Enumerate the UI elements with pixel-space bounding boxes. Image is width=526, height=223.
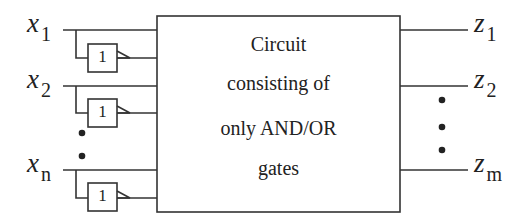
inverter-label-1: 1	[88, 47, 117, 67]
ellipsis-dot	[439, 147, 446, 154]
box-text-line-4: gates	[157, 157, 400, 180]
ellipsis-dot	[79, 130, 86, 137]
output-label-z1: z1	[474, 8, 497, 39]
box-text-line-1: Circuit	[157, 33, 400, 56]
box-text-line-3: only AND/OR	[157, 117, 400, 140]
box-text-line-2: consisting of	[157, 72, 400, 95]
ellipsis-dot	[79, 153, 86, 160]
input-label-x1: x1	[27, 8, 51, 39]
ellipsis-dot	[439, 124, 446, 131]
input-label-x2: x2	[27, 64, 51, 95]
inverter-label-n: 1	[88, 186, 117, 206]
output-label-z2: z2	[474, 64, 497, 95]
ellipsis-dot	[439, 97, 446, 104]
output-label-zm: zm	[474, 148, 502, 179]
input-label-xn: xn	[27, 148, 51, 179]
inverter-label-2: 1	[88, 102, 117, 122]
